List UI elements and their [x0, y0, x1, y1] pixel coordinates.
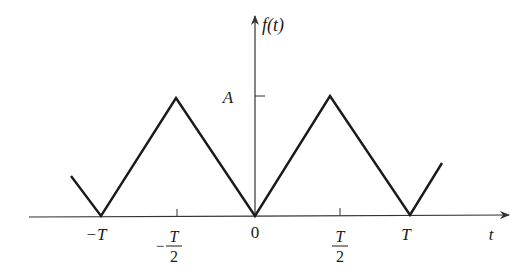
- fraction-numerator: T: [336, 228, 346, 245]
- waveform-line: [71, 96, 442, 216]
- tick-label-zero: 0: [251, 223, 260, 242]
- tick-label-t: T: [401, 225, 412, 244]
- tick-label-neg-t: −T: [86, 225, 108, 244]
- fraction-denominator: 2: [170, 248, 178, 265]
- tick-label-half-t: T 2: [332, 228, 348, 265]
- triangular-wave-diagram: f(t) A t −T − T 2 0 T 2 T: [0, 0, 513, 280]
- fraction-denominator: 2: [336, 248, 344, 265]
- fraction-sign: −: [156, 238, 164, 254]
- x-axis-label: t: [489, 225, 495, 244]
- amplitude-label: A: [222, 88, 234, 107]
- fraction-numerator: T: [170, 228, 180, 245]
- y-axis-label: f(t): [262, 15, 284, 36]
- tick-label-neg-half-t: − T 2: [156, 228, 182, 265]
